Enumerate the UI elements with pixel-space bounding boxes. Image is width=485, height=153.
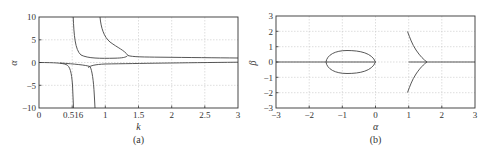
curve-branch-3 xyxy=(88,62,238,67)
xtick-a-1_5: 1.5 xyxy=(133,110,145,120)
xtick-b-neg2: −2 xyxy=(304,110,314,120)
xtick-b-neg3: −3 xyxy=(271,110,281,120)
xlabel-b: α xyxy=(373,121,379,132)
ytick-a-5: 5 xyxy=(32,35,37,45)
xtick-b-2: 2 xyxy=(440,110,445,120)
xtick-b-3: 3 xyxy=(473,110,478,120)
xlabel-a: k xyxy=(136,121,141,132)
curve-branch-4 xyxy=(73,17,127,58)
ytick-a-neg10: −10 xyxy=(22,103,37,113)
ytick-a-0: 0 xyxy=(32,58,37,68)
ytick-b-neg2: −2 xyxy=(263,88,273,98)
xtick-a-0: 0 xyxy=(37,110,42,120)
xtick-b-1: 1 xyxy=(406,110,411,120)
curve-branch-1 xyxy=(39,63,74,109)
ytick-a-neg5: −5 xyxy=(26,81,36,91)
ylabel-a: α xyxy=(8,60,19,66)
xtick-a-0516: 0.516 xyxy=(63,110,84,120)
xtick-a-2_5: 2.5 xyxy=(199,110,211,120)
xtick-b-neg1: −1 xyxy=(338,110,348,120)
xtick-b-0: 0 xyxy=(373,110,378,120)
panel-b: 3 2 1 0 −1 −2 −3 −3 −2 −1 0 1 2 3 β α (b… xyxy=(247,11,478,146)
caption-b: (b) xyxy=(370,134,382,146)
ticks-b-marks xyxy=(276,31,442,108)
xtick-a-3: 3 xyxy=(236,110,241,120)
panel-a: 10 5 0 −5 −10 0 0.516 1 1.5 2 2.5 3 α k … xyxy=(8,12,241,146)
ytick-b-1: 1 xyxy=(269,42,274,52)
curve-branch-5 xyxy=(100,17,238,58)
ytick-b-2: 2 xyxy=(269,27,274,37)
curve-branch-2 xyxy=(60,63,95,108)
ytick-b-neg1: −1 xyxy=(263,73,273,83)
xtick-a-1: 1 xyxy=(103,110,108,120)
ytick-b-0: 0 xyxy=(269,57,274,67)
figure: 10 5 0 −5 −10 0 0.516 1 1.5 2 2.5 3 α k … xyxy=(0,0,485,153)
ylabel-b: β xyxy=(247,60,258,66)
ytick-b-3: 3 xyxy=(269,11,274,21)
ytick-a-10: 10 xyxy=(27,12,37,22)
xtick-a-2: 2 xyxy=(169,110,174,120)
caption-a: (a) xyxy=(133,134,144,146)
